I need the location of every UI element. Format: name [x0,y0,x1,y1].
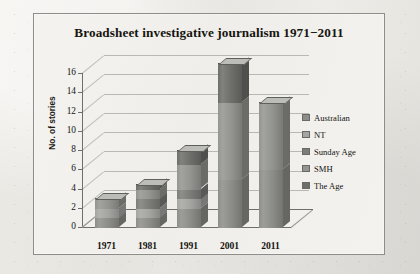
bar-segment-side [242,173,249,227]
bar-segment-face [218,102,242,180]
bar-segment-sunday-age[interactable] [177,189,201,199]
bar-segment-face [177,198,201,209]
bar-segment-smh[interactable] [177,164,201,188]
y-axis-tick-label: 4 [54,183,76,193]
bar-segment-face [95,208,119,219]
bar-segment-nt[interactable] [136,208,160,218]
bar-segment-face [177,164,201,189]
y-axis-tick-label: 16 [54,67,76,77]
bar-segment-side [242,96,249,179]
bar-segment-face [259,169,283,228]
x-axis-tick-label: 1971 [86,240,128,251]
legend-item-label: SMH [314,164,333,174]
y-axis-tick-label: 2 [54,202,76,212]
y-axis-tick-label: 12 [54,106,76,116]
bar-segment-smh[interactable] [136,189,160,199]
bar-segment-face [95,217,119,228]
bar-segment-face [177,189,201,200]
x-axis-tick-label: 2001 [209,240,251,251]
bar-segment-australian[interactable] [177,208,201,227]
legend-swatch-icon [302,148,310,155]
bar-segment-nt[interactable] [177,198,201,208]
bar-segment-side [283,96,290,169]
chart-legend: AustralianNTSunday AgeSMHThe Age [302,109,384,194]
legend-item-nt[interactable]: NT [302,126,384,143]
y-axis-tick-label: 14 [54,86,76,96]
bar-segment-australian[interactable] [136,217,160,227]
bar-segment-the-age[interactable] [218,63,242,102]
y-axis-tick-label: 10 [54,125,76,135]
legend-item-smh[interactable]: SMH [302,160,384,177]
legend-swatch-icon [302,165,310,172]
bar-segment-face [177,208,201,228]
bar-segment-face [259,102,283,170]
bar-segment-smh[interactable] [218,102,242,179]
bar-2011[interactable] [259,14,283,227]
legend-item-sunday-age[interactable]: Sunday Age [302,143,384,160]
bar-1991[interactable] [177,14,201,227]
bar-segment-smh[interactable] [259,102,283,169]
x-axis-tick-label: 1991 [168,240,210,251]
legend-item-label: NT [314,130,325,140]
bar-segment-face [218,179,242,228]
legend-item-label: The Age [314,181,343,191]
legend-item-label: Australian [314,113,350,123]
bar-segment-face [136,198,160,209]
bar-segment-australian[interactable] [95,217,119,227]
bar-segment-face [136,189,160,200]
bar-1981[interactable] [136,14,160,227]
x-axis-tick-label: 2011 [250,240,292,251]
bar-segment-australian[interactable] [259,169,283,227]
bar-segment-nt[interactable] [95,208,119,218]
bar-segment-the-age[interactable] [177,150,201,164]
y-axis-tick-label: 6 [54,163,76,173]
y-axis-tick-label: 8 [54,144,76,154]
x-axis-tick-label: 1981 [127,240,169,251]
bar-segment-face [177,150,201,165]
floor-right-edge [291,209,314,228]
legend-item-australian[interactable]: Australian [302,109,384,126]
chart-frame: Broadsheet investigative journalism 1971… [33,13,385,255]
legend-swatch-icon [302,182,310,189]
bar-segment-face [136,217,160,228]
legend-swatch-icon [302,131,310,138]
legend-swatch-icon [302,114,310,121]
bar-segment-face [136,208,160,219]
bar-segment-face [218,63,242,103]
bar-segment-sunday-age[interactable] [136,198,160,208]
y-axis-line [82,73,83,228]
y-axis-tick-label: 0 [54,221,76,231]
bar-1971[interactable] [95,14,119,227]
legend-item-the-age[interactable]: The Age [302,177,384,194]
bar-2001[interactable] [218,14,242,227]
bar-segment-side [283,164,290,227]
bar-segment-australian[interactable] [218,179,242,227]
legend-item-label: Sunday Age [314,147,356,157]
